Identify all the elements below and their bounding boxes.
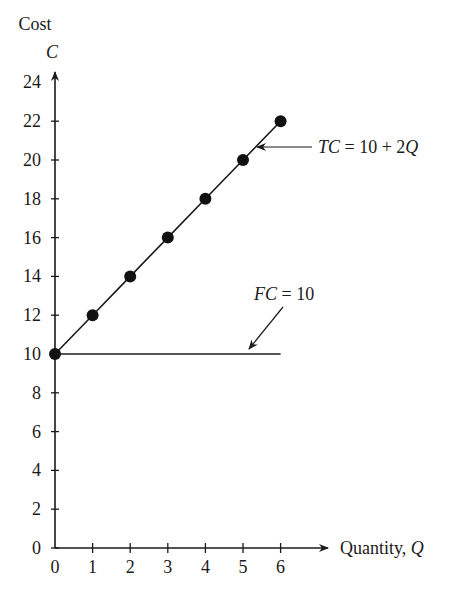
y-tick-label: 6 xyxy=(32,422,41,442)
x-tick-label: 1 xyxy=(88,557,97,577)
y-tick-label: 16 xyxy=(23,228,41,248)
data-point xyxy=(275,115,287,127)
y-tick-label: 20 xyxy=(23,150,41,170)
y-axis-label: Cost xyxy=(18,14,51,34)
series-group xyxy=(49,115,287,360)
y-tick-label: 14 xyxy=(23,266,41,286)
x-tick-label: 2 xyxy=(126,557,135,577)
data-point xyxy=(124,270,136,282)
x-axis-label-text: Quantity, xyxy=(340,538,411,558)
data-point xyxy=(199,193,211,205)
y-tick-label: 4 xyxy=(32,460,41,480)
fc-annotation-arrow xyxy=(249,307,283,349)
tc-annotation: TC = 10 + 2Q xyxy=(318,137,418,157)
fc-annotation: FC = 10 xyxy=(253,284,314,304)
y-tick-label: 2 xyxy=(32,499,41,519)
cost-chart: Cost C 024681012141618202224 0123456 Qua… xyxy=(0,0,453,595)
x-tick-label: 5 xyxy=(239,557,248,577)
data-point xyxy=(87,309,99,321)
x-tick-label: 0 xyxy=(51,557,60,577)
x-axis-label: Quantity, Q xyxy=(340,538,424,558)
data-point xyxy=(237,154,249,166)
y-tick-label: 0 xyxy=(32,538,41,558)
y-tick-label: 24 xyxy=(23,72,41,92)
x-tick-label: 4 xyxy=(201,557,210,577)
x-tick-label: 3 xyxy=(163,557,172,577)
x-tick-label: 6 xyxy=(276,557,285,577)
y-ticks: 024681012141618202224 xyxy=(23,72,59,558)
y-tick-label: 8 xyxy=(32,383,41,403)
y-tick-label: 10 xyxy=(23,344,41,364)
y-tick-label: 18 xyxy=(23,189,41,209)
y-tick-label: 12 xyxy=(23,305,41,325)
y-tick-label: 22 xyxy=(23,111,41,131)
x-axis-symbol: Q xyxy=(411,538,424,558)
data-point xyxy=(162,232,174,244)
y-axis-symbol: C xyxy=(46,42,59,62)
